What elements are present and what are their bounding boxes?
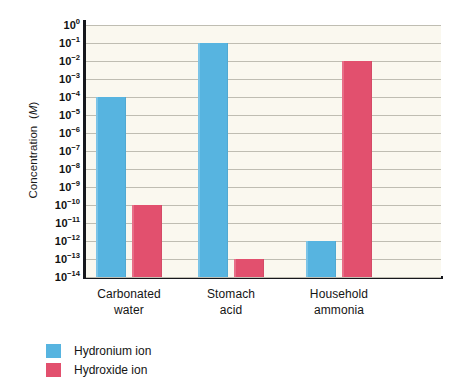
plot-area xyxy=(86,25,441,277)
y-axis-tick-label: 10−4 xyxy=(36,92,80,103)
gridline xyxy=(86,133,441,134)
x-axis-category-label: Householdammonia xyxy=(279,286,399,318)
gridline xyxy=(86,43,441,44)
legend-item: Hydroxide ion xyxy=(46,360,266,379)
y-axis-tick-label: 10−14 xyxy=(36,272,80,283)
gridline xyxy=(86,61,441,62)
legend-label: Hydroxide ion xyxy=(74,363,147,377)
y-axis-tick-label: 10−8 xyxy=(36,164,80,175)
y-axis-tick-label: 10−2 xyxy=(36,56,80,67)
category-label-line: ammonia xyxy=(279,302,399,318)
gridline xyxy=(86,25,441,26)
legend-swatch-hydroxide xyxy=(46,363,61,377)
y-axis-tick-label: 10−7 xyxy=(36,146,80,157)
y-axis-tick-label: 10−12 xyxy=(36,236,80,247)
legend-swatch-hydronium xyxy=(46,344,61,358)
category-label-line: Stomach xyxy=(171,286,291,302)
bar-hydronium xyxy=(306,241,336,277)
chart-legend: Hydronium ionHydroxide ion xyxy=(46,341,266,379)
x-axis-category-labels: CarbonatedwaterStomachacidHouseholdammon… xyxy=(86,286,441,330)
bar-hydroxide xyxy=(342,61,372,277)
y-axis-tick-label: 100 xyxy=(36,20,80,31)
y-axis-tick-label: 10−6 xyxy=(36,128,80,139)
x-axis-category-label: Stomachacid xyxy=(171,286,291,318)
category-label-line: acid xyxy=(171,302,291,318)
y-axis-tick-label: 10−11 xyxy=(36,218,80,229)
y-axis-tick-label: 10−5 xyxy=(36,110,80,121)
gridline xyxy=(86,151,441,152)
gridline xyxy=(86,277,441,278)
y-axis-tick-label: 10−9 xyxy=(36,182,80,193)
legend-label: Hydronium ion xyxy=(74,344,151,358)
bar-hydroxide xyxy=(132,205,162,277)
gridline xyxy=(86,115,441,116)
y-axis-tick-label: 10−1 xyxy=(36,38,80,49)
y-axis-tick-label: 10−3 xyxy=(36,74,80,85)
category-label-line: Household xyxy=(279,286,399,302)
y-axis-tick-labels: 10010−110−210−310−410−510−610−710−810−91… xyxy=(36,18,80,282)
chart-figure: Concentration (M) 10010−110−210−310−410−… xyxy=(0,0,465,386)
gridline xyxy=(86,79,441,80)
gridline xyxy=(86,97,441,98)
bar-hydronium xyxy=(198,43,228,277)
y-axis-tick-label: 10−13 xyxy=(36,254,80,265)
bar-hydronium xyxy=(96,97,126,277)
y-axis-tick-label: 10−10 xyxy=(36,200,80,211)
bar-hydroxide xyxy=(234,259,264,277)
gridline xyxy=(86,187,441,188)
gridline xyxy=(86,169,441,170)
legend-item: Hydronium ion xyxy=(46,341,266,360)
